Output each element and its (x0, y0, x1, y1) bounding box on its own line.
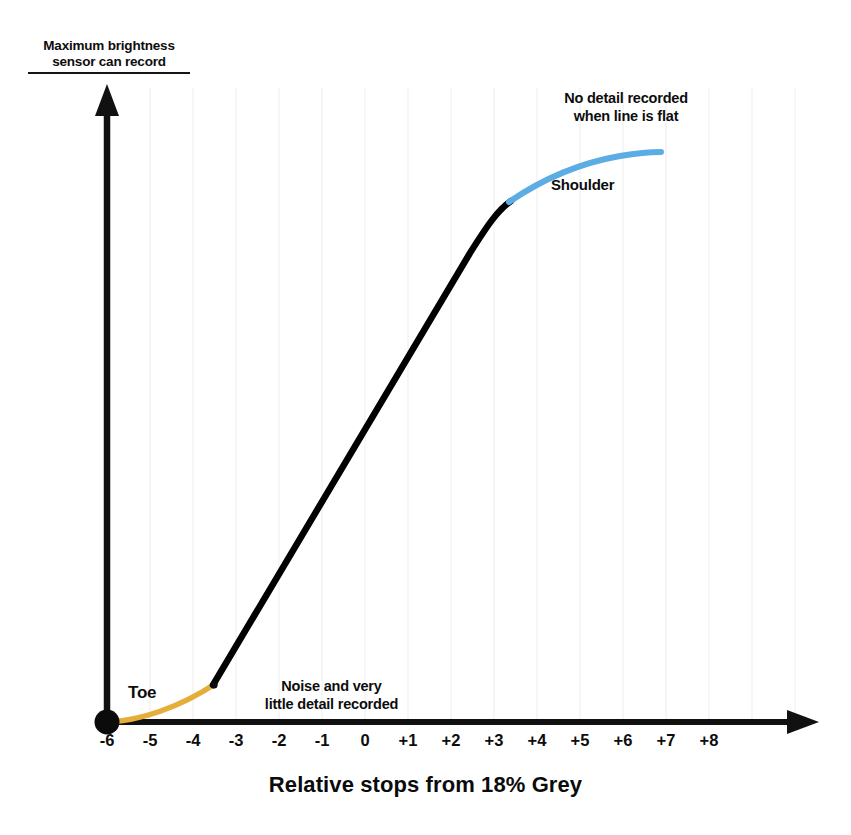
x-tick-label: -2 (256, 731, 302, 750)
x-tick-label: +3 (471, 731, 517, 750)
y-axis-caption: Maximum brightness sensor can record (28, 38, 190, 74)
x-tick-label: +4 (514, 731, 560, 750)
x-tick-label: -3 (213, 731, 259, 750)
toe-knee-dot (210, 681, 217, 688)
x-tick-label: 0 (342, 731, 388, 750)
x-tick-label: +7 (643, 731, 689, 750)
page-scan-artifact (0, 818, 851, 832)
straight-line-segment (213, 201, 511, 685)
x-tick-label: -4 (170, 731, 216, 750)
annotation-toe: Toe (128, 683, 156, 703)
x-tick-label: -6 (84, 731, 130, 750)
x-tick-label: +2 (428, 731, 474, 750)
x-tick-label: +5 (557, 731, 603, 750)
y-axis (95, 84, 119, 722)
annotation-no-detail-when-flat: No detail recorded when line is flat (512, 90, 740, 125)
x-tick-label: +8 (686, 731, 732, 750)
x-axis-title: Relative stops from 18% Grey (0, 772, 851, 798)
x-axis-tick-labels: -6-5-4-3-2-10+1+2+3+4+5+6+7+8 (0, 731, 851, 757)
x-tick-label: +6 (600, 731, 646, 750)
annotation-noise-little-detail: Noise and very little detail recorded (229, 678, 434, 713)
x-tick-label: -5 (127, 731, 173, 750)
toe-curve (107, 684, 215, 722)
annotation-shoulder: Shoulder (551, 176, 614, 194)
x-tick-label: -1 (299, 731, 345, 750)
response-curve-figure: Maximum brightness sensor can record No … (0, 0, 851, 835)
x-tick-label: +1 (385, 731, 431, 750)
